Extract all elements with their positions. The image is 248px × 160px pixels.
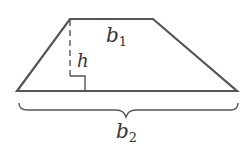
- right-angle-marker: [70, 76, 85, 91]
- bottom-base-brace: [19, 103, 238, 117]
- trapezoid-diagram: b1 h b2: [0, 0, 248, 160]
- trapezoid-shape: [17, 19, 237, 91]
- height-label: h: [77, 50, 89, 71]
- bottom-base-label: b2: [116, 119, 137, 145]
- top-base-label: b1: [106, 23, 127, 49]
